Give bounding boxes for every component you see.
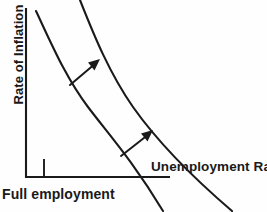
phillips-curve-shifted (80, 0, 232, 211)
phillips-curve-figure: Rate of Inflation Unemployment Rate Full… (0, 0, 267, 212)
full-employment-label: Full employment (2, 186, 115, 202)
phillips-curve-svg (0, 0, 267, 212)
y-axis-label: Rate of Inflation (11, 1, 26, 109)
x-axis-label: Unemployment Rate (151, 159, 267, 174)
shift-arrow-upper-icon (70, 59, 100, 85)
shift-arrow-lower-icon (121, 130, 153, 156)
phillips-curve-original (36, 11, 163, 211)
